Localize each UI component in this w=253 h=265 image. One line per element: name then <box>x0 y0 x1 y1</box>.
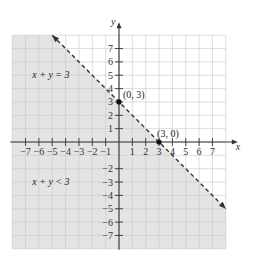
inequality-annotation: x + y < 3 <box>31 176 69 187</box>
y-tick-label: −6 <box>102 217 113 228</box>
x-tick-label: −2 <box>87 146 98 157</box>
x-tick-label: 1 <box>130 146 135 157</box>
x-tick-label: 3 <box>157 146 162 157</box>
y-tick-label: −4 <box>102 190 113 201</box>
y-tick-label: 2 <box>108 110 113 121</box>
y-tick-label: 6 <box>108 56 113 67</box>
x-tick-label: −3 <box>74 146 85 157</box>
x-tick-label: 5 <box>183 146 188 157</box>
y-tick-label: −5 <box>102 203 113 214</box>
y-tick-label: 1 <box>108 123 113 134</box>
x-tick-label: −6 <box>34 146 45 157</box>
x-tick-label: 7 <box>210 146 215 157</box>
y-tick-label: 7 <box>108 43 113 54</box>
intercept-point <box>116 99 121 104</box>
equation-annotation: x + y = 3 <box>31 69 69 80</box>
y-tick-label: −2 <box>102 163 113 174</box>
x-tick-label: 2 <box>143 146 148 157</box>
x-tick-label: −7 <box>20 146 31 157</box>
intercept-label: (0, 3) <box>123 89 145 101</box>
y-axis-label: y <box>110 16 116 27</box>
y-tick-label: −7 <box>102 230 113 241</box>
x-tick-label: −5 <box>47 146 58 157</box>
x-tick-label: −1 <box>100 146 111 157</box>
x-tick-label: −4 <box>60 146 71 157</box>
x-tick-label: 6 <box>197 146 202 157</box>
y-tick-label: 5 <box>108 70 113 81</box>
intercept-point <box>156 139 161 144</box>
x-axis-label: x <box>235 141 241 152</box>
y-tick-label: −3 <box>102 177 113 188</box>
graph-inequality: −7−6−5−4−3−2−11234567 7654321−2−3−4−5−6−… <box>0 0 253 265</box>
y-axis-arrow <box>117 22 122 28</box>
intercept-label: (3, 0) <box>157 128 179 140</box>
y-tick-label: 3 <box>108 96 113 107</box>
